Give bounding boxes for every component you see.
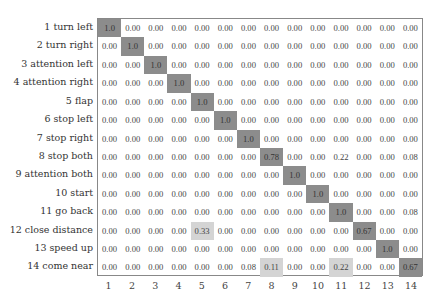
matrix-cell: 0.00 [121,185,144,203]
matrix-row: 0.000.000.000.000.001.00.000.000.000.000… [98,111,422,129]
column-label: 7 [237,280,260,291]
matrix-cell: 0.00 [306,166,329,184]
matrix-row: 0.000.000.000.000.000.000.080.110.000.00… [98,258,422,276]
matrix-cell: 0.22 [329,258,352,276]
matrix-cell: 0.00 [98,37,121,55]
matrix-cell: 0.00 [214,74,237,92]
matrix-cell: 0.00 [214,203,237,221]
matrix-cell: 0.00 [329,74,352,92]
matrix-cell: 0.00 [283,56,306,74]
matrix-cell: 0.00 [399,93,422,111]
matrix-cell: 1.0 [306,185,329,203]
matrix-cell: 0.00 [376,19,399,37]
matrix-cell: 0.00 [283,111,306,129]
matrix-cell: 1.0 [283,166,306,184]
matrix-cell: 0.00 [260,93,283,111]
matrix-cell: 0.00 [98,56,121,74]
matrix-cell: 0.00 [98,185,121,203]
column-labels: 1234567891011121314 [97,280,423,291]
matrix-cell: 0.00 [98,130,121,148]
matrix-cell: 0.00 [306,56,329,74]
matrix-cell: 0.00 [306,148,329,166]
matrix-cell: 0.00 [98,148,121,166]
matrix-cell: 0.00 [237,56,260,74]
matrix-cell: 0.00 [214,93,237,111]
matrix-cell: 0.00 [329,222,352,240]
matrix-cell: 0.00 [167,56,190,74]
matrix-cell: 0.00 [121,111,144,129]
matrix-cell: 0.00 [191,258,214,276]
matrix-cell: 0.00 [167,258,190,276]
matrix-cell: 0.00 [306,222,329,240]
matrix-cell: 0.00 [237,148,260,166]
matrix-cell: 0.00 [306,37,329,55]
matrix-cell: 0.00 [191,37,214,55]
matrix-row: 0.000.000.000.000.330.000.000.000.000.00… [98,222,422,240]
matrix-cell: 0.00 [191,203,214,221]
matrix-row: 0.000.000.000.000.000.000.000.780.000.00… [98,148,422,166]
matrix-cell: 0.67 [399,258,422,276]
matrix-cell: 0.00 [283,74,306,92]
matrix-cell: 0.00 [144,203,167,221]
matrix-cell: 0.00 [237,185,260,203]
matrix-cell: 0.00 [237,93,260,111]
matrix-cell: 0.00 [283,240,306,258]
matrix-cell: 0.00 [260,56,283,74]
matrix-cell: 0.00 [260,19,283,37]
matrix-cell: 0.00 [144,166,167,184]
matrix-row: 0.000.000.001.00.000.000.000.000.000.000… [98,74,422,92]
matrix-cell: 0.00 [376,185,399,203]
row-label: 13 speed up [0,239,93,257]
matrix-cell: 0.00 [283,130,306,148]
matrix-cell: 1.0 [144,56,167,74]
matrix-row: 0.001.00.000.000.000.000.000.000.000.000… [98,37,422,55]
matrix-cell: 0.00 [167,19,190,37]
matrix-row: 0.000.000.000.000.000.000.000.001.00.000… [98,166,422,184]
matrix-cell: 0.00 [214,258,237,276]
row-label: 11 go back [0,202,93,220]
matrix-cell: 0.00 [329,240,352,258]
matrix-cell: 0.00 [260,240,283,258]
matrix-cell: 0.00 [214,130,237,148]
matrix-cell: 0.00 [237,166,260,184]
column-label: 13 [376,280,399,291]
matrix-cell: 0.00 [167,93,190,111]
matrix-cell: 0.00 [283,148,306,166]
confusion-matrix: 1.00.000.000.000.000.000.000.000.000.000… [97,18,423,276]
matrix-cell: 0.00 [121,148,144,166]
matrix-cell: 0.00 [121,240,144,258]
column-label: 12 [353,280,376,291]
matrix-cell: 0.00 [260,166,283,184]
row-label: 8 stop both [0,147,93,165]
matrix-cell: 0.00 [191,185,214,203]
matrix-cell: 0.00 [214,37,237,55]
matrix-cell: 0.00 [283,19,306,37]
matrix-cell: 1.0 [191,93,214,111]
matrix-cell: 0.00 [329,56,352,74]
matrix-cell: 0.00 [399,130,422,148]
matrix-cell: 0.00 [98,258,121,276]
matrix-cell: 0.00 [376,93,399,111]
column-label: 10 [306,280,329,291]
matrix-cell: 0.00 [121,203,144,221]
matrix-cell: 0.00 [121,74,144,92]
matrix-cell: 0.00 [214,56,237,74]
column-label: 4 [167,280,190,291]
matrix-cell: 0.00 [283,222,306,240]
matrix-row: 0.000.001.00.000.000.000.000.000.000.000… [98,56,422,74]
matrix-cell: 1.0 [376,240,399,258]
matrix-cell: 0.00 [399,185,422,203]
matrix-cell: 0.00 [306,19,329,37]
matrix-cell: 0.00 [306,111,329,129]
matrix-cell: 0.00 [353,203,376,221]
matrix-cell: 0.00 [214,148,237,166]
matrix-cell: 0.00 [237,240,260,258]
column-label: 8 [260,280,283,291]
matrix-cell: 0.00 [191,74,214,92]
matrix-cell: 0.00 [329,130,352,148]
matrix-cell: 0.00 [353,56,376,74]
matrix-cell: 0.00 [306,74,329,92]
matrix-cell: 0.00 [376,111,399,129]
matrix-cell: 0.00 [144,185,167,203]
matrix-cell: 0.00 [167,185,190,203]
